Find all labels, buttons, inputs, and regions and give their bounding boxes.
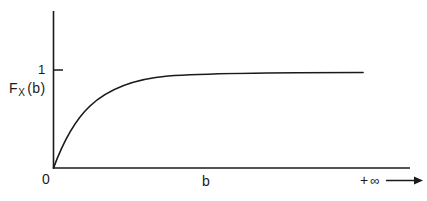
infinity-arrow-head <box>414 177 423 185</box>
x-axis-end-label: +∞ <box>360 173 380 187</box>
plot-canvas <box>0 0 427 201</box>
y-axis-label-prefix: F <box>9 80 18 96</box>
cdf-curve <box>54 73 364 169</box>
x-axis-label: b <box>202 174 210 188</box>
origin-label: 0 <box>42 172 50 186</box>
y-tick-label-one: 1 <box>38 63 45 76</box>
y-axis-label-suffix: (b) <box>26 80 46 96</box>
infinity-icon: ∞ <box>369 173 380 188</box>
cdf-figure: FX(b) 1 0 b +∞ <box>0 0 427 201</box>
plus-sign: + <box>360 172 369 188</box>
y-axis-label-subscript: X <box>18 87 26 98</box>
y-axis-label: FX(b) <box>9 81 45 98</box>
